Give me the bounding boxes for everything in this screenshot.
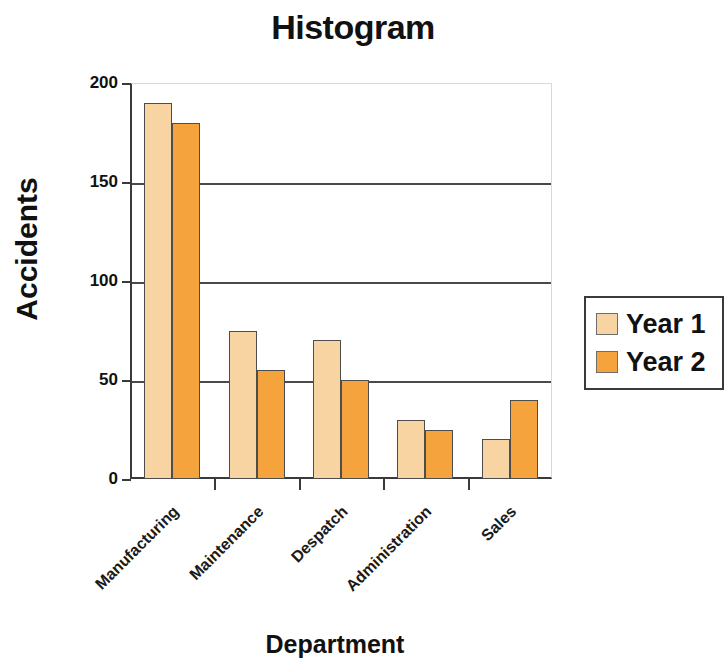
bar xyxy=(313,340,341,479)
x-axis-tick xyxy=(383,479,385,490)
x-axis-tick xyxy=(468,479,470,490)
bar xyxy=(229,331,257,480)
y-axis-tick xyxy=(122,380,131,382)
legend-item-year-1: Year 1 xyxy=(596,305,716,343)
legend-swatch-icon-year-2 xyxy=(596,351,618,373)
x-axis-tick-label: Sales xyxy=(478,503,520,545)
y-axis-tick-label: 100 xyxy=(62,272,118,289)
bar xyxy=(397,420,425,479)
legend-label-year-2: Year 2 xyxy=(626,349,706,376)
y-axis-tick-label: 50 xyxy=(62,371,118,388)
y-axis-tick-label: 150 xyxy=(62,173,118,190)
y-axis-tick-label: 200 xyxy=(62,74,118,91)
y-axis-tick xyxy=(122,281,131,283)
bar xyxy=(341,380,369,479)
bar xyxy=(257,370,285,479)
y-axis-tick xyxy=(122,182,131,184)
legend-label-year-1: Year 1 xyxy=(626,311,706,338)
x-axis-title: Department xyxy=(115,630,555,659)
bar xyxy=(425,430,453,480)
legend-item-year-2: Year 2 xyxy=(596,343,716,381)
bar xyxy=(510,400,538,479)
chart-legend: Year 1 Year 2 xyxy=(584,296,724,390)
bar xyxy=(172,123,200,479)
bar xyxy=(482,439,510,479)
x-axis-tick-label: Maintenance xyxy=(186,503,267,584)
legend-swatch-icon-year-1 xyxy=(596,313,618,335)
chart-title: Histogram xyxy=(0,8,706,47)
y-axis-tick xyxy=(122,479,131,481)
x-axis-tick xyxy=(299,479,301,490)
x-axis-tick xyxy=(214,479,216,490)
y-axis-tick xyxy=(122,83,131,85)
x-axis-tick-label: Administration xyxy=(343,503,436,596)
y-axis-tick-label: 0 xyxy=(62,470,118,487)
y-axis-title: Accidents xyxy=(10,159,44,339)
x-axis-tick-label: Manufacturing xyxy=(92,503,183,594)
bar xyxy=(144,103,172,479)
x-axis-tick-label: Despatch xyxy=(288,503,352,567)
